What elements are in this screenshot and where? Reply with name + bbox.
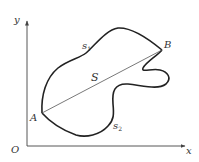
closed-curve-diagram: y x O A B S s1 s2 (0, 0, 199, 162)
lower-arc-s2 (42, 50, 169, 136)
arc-s2-label: s2 (113, 120, 122, 132)
chord-S (42, 50, 162, 113)
point-A-label: A (29, 112, 37, 123)
origin-label: O (11, 144, 19, 155)
chord-S-label: S (91, 71, 99, 84)
x-axis-label: x (186, 145, 192, 156)
arc-s1-label: s1 (82, 40, 91, 52)
point-B-label: B (163, 39, 171, 50)
diagram-canvas: y x O A B S s1 s2 (0, 0, 199, 162)
y-axis-label: y (13, 14, 20, 25)
